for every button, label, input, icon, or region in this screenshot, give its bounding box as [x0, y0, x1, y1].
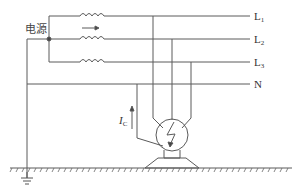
- label-n: N: [254, 78, 262, 90]
- circuit-diagram: 电源 L1 L2 L3 N IC: [0, 0, 292, 194]
- earth-ground-icon: [21, 172, 33, 184]
- inductor-l1-icon: [80, 14, 104, 17]
- label-l1: L1: [254, 10, 265, 24]
- earth-hatch: [10, 168, 288, 172]
- inductor-l3-icon: [80, 60, 104, 63]
- label-l2: L2: [254, 33, 265, 47]
- label-ic: IC: [118, 114, 128, 128]
- source-label: 电源: [25, 22, 47, 36]
- inductor-l2-icon: [80, 37, 104, 40]
- label-l3: L3: [254, 56, 265, 70]
- motor-icon: [156, 119, 188, 151]
- motor-base: [145, 158, 199, 168]
